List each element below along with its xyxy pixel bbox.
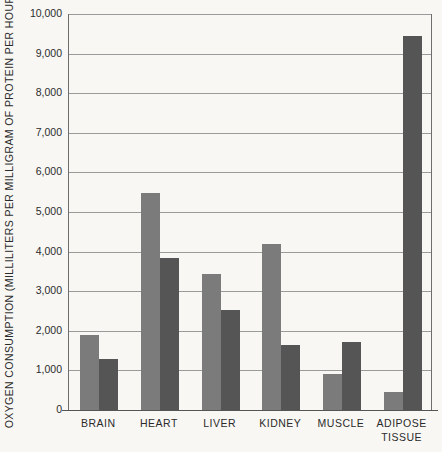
bar bbox=[221, 310, 240, 410]
gridline bbox=[69, 291, 431, 292]
y-tick-label: 2,000 bbox=[16, 324, 62, 336]
x-category-label-line: MUSCLE bbox=[311, 416, 372, 430]
x-category-label-line: BRAIN bbox=[68, 416, 129, 430]
y-tick-label: 10,000 bbox=[16, 7, 62, 19]
x-category-label-line: KIDNEY bbox=[250, 416, 311, 430]
y-tick-label: 0 bbox=[16, 403, 62, 415]
y-tick-label: 8,000 bbox=[16, 86, 62, 98]
bar bbox=[80, 335, 99, 410]
x-category-label-line: HEART bbox=[129, 416, 190, 430]
gridline bbox=[69, 212, 431, 213]
y-axis-tick-labels: 01,0002,0003,0004,0005,0006,0007,0008,00… bbox=[14, 14, 62, 410]
x-category-label: LIVER bbox=[189, 416, 250, 430]
x-category-label: ADIPOSETISSUE bbox=[371, 416, 432, 444]
x-category-label: MUSCLE bbox=[311, 416, 372, 430]
x-category-label: HEART bbox=[129, 416, 190, 430]
x-axis-line bbox=[62, 410, 438, 411]
bar bbox=[281, 345, 300, 410]
bar bbox=[202, 274, 221, 410]
gridline bbox=[69, 93, 431, 94]
bar bbox=[262, 244, 281, 410]
y-tick-label: 9,000 bbox=[16, 47, 62, 59]
gridline bbox=[69, 370, 431, 371]
y-tick-label: 5,000 bbox=[16, 205, 62, 217]
y-tick-label: 6,000 bbox=[16, 165, 62, 177]
y-tick-label: 7,000 bbox=[16, 126, 62, 138]
x-category-label-line: TISSUE bbox=[371, 430, 432, 444]
gridline bbox=[69, 331, 431, 332]
x-category-label-line: ADIPOSE bbox=[371, 416, 432, 430]
x-category-label: KIDNEY bbox=[250, 416, 311, 430]
gridline bbox=[69, 172, 431, 173]
gridline bbox=[69, 54, 431, 55]
x-category-label: BRAIN bbox=[68, 416, 129, 430]
bar bbox=[160, 258, 179, 410]
chart-figure: OXYGEN CONSUMPTION (MILLILITERS PER MILL… bbox=[0, 0, 442, 452]
bar bbox=[342, 342, 361, 410]
x-category-label-line: LIVER bbox=[189, 416, 250, 430]
bar bbox=[384, 392, 403, 410]
y-tick-label: 3,000 bbox=[16, 284, 62, 296]
bar bbox=[141, 193, 160, 410]
y-tick-label: 4,000 bbox=[16, 245, 62, 257]
plot-area bbox=[68, 14, 432, 410]
y-tick-label: 1,000 bbox=[16, 363, 62, 375]
bar bbox=[403, 36, 422, 410]
bar bbox=[323, 374, 342, 410]
bar bbox=[99, 359, 118, 410]
gridline bbox=[69, 133, 431, 134]
gridline bbox=[69, 252, 431, 253]
gridline bbox=[69, 14, 431, 15]
